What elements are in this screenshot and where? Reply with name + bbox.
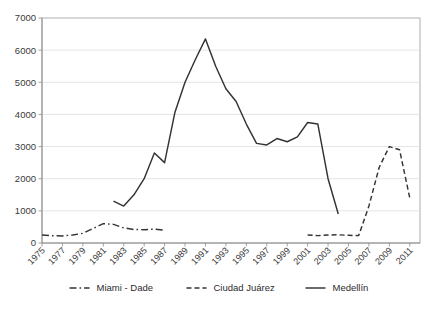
x-tick-label: 1985 bbox=[128, 245, 149, 266]
plot-frame bbox=[42, 18, 420, 243]
y-tick-label: 1000 bbox=[15, 205, 36, 216]
y-tick-label: 6000 bbox=[15, 45, 36, 56]
y-tick-label: 3000 bbox=[15, 141, 36, 152]
x-tick-label: 1995 bbox=[230, 245, 251, 266]
chart-canvas: 01000200030004000500060007000 1975197719… bbox=[0, 0, 438, 309]
x-tick-label: 2007 bbox=[353, 245, 374, 266]
y-tick-label: 2000 bbox=[15, 173, 36, 184]
legend-label-3: Medellín bbox=[333, 282, 369, 293]
x-tick-label: 1979 bbox=[67, 245, 88, 266]
x-tick-label: 1993 bbox=[210, 245, 231, 266]
x-tick-label: 2011 bbox=[394, 245, 415, 266]
x-tick-label: 1999 bbox=[271, 245, 292, 266]
x-axis: 1975197719791981198319851987198919911993… bbox=[26, 243, 420, 267]
x-tick-label: 1991 bbox=[189, 245, 210, 266]
y-tick-label: 0 bbox=[31, 237, 36, 248]
y-axis: 01000200030004000500060007000 bbox=[15, 12, 42, 248]
legend-label-1: Miami - Dade bbox=[97, 282, 154, 293]
x-tick-label: 1981 bbox=[87, 245, 108, 266]
legend-label-2: Ciudad Juárez bbox=[214, 282, 276, 293]
x-tick-label: 1997 bbox=[250, 245, 271, 266]
y-tick-label: 5000 bbox=[15, 77, 36, 88]
x-tick-label: 1983 bbox=[107, 245, 128, 266]
x-tick-label: 2001 bbox=[291, 245, 312, 266]
x-tick-label: 2005 bbox=[332, 245, 353, 266]
line-chart-figure: 01000200030004000500060007000 1975197719… bbox=[0, 0, 438, 309]
x-tick-label: 2009 bbox=[373, 245, 394, 266]
x-tick-label: 1975 bbox=[26, 245, 47, 266]
y-tick-label: 4000 bbox=[15, 109, 36, 120]
x-tick-label: 1977 bbox=[46, 245, 67, 266]
chart-legend: Miami - DadeCiudad JuárezMedellín bbox=[70, 282, 369, 293]
x-tick-label: 1987 bbox=[148, 245, 169, 266]
y-tick-label: 7000 bbox=[15, 12, 36, 23]
x-tick-label: 2003 bbox=[312, 245, 333, 266]
x-tick-label: 1989 bbox=[169, 245, 190, 266]
plot-area bbox=[42, 18, 420, 243]
